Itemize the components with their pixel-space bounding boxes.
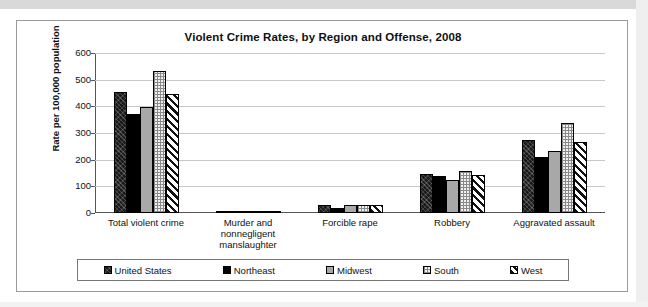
page-canvas: Violent Crime Rates, by Region and Offen… (0, 0, 648, 307)
x-axis-tick-label-line: manslaughter (197, 239, 299, 250)
x-axis-tick-label: Forcible rape (299, 217, 401, 228)
y-axis-tick-label: 200 (57, 155, 91, 165)
x-axis-tick-label-line: Robbery (401, 217, 503, 228)
x-axis-tick-label-line: Aggravated assault (503, 217, 605, 228)
bar (370, 205, 383, 213)
legend-item[interactable]: South (423, 265, 459, 276)
bar (446, 180, 459, 213)
y-axis-tick-label: 0 (57, 208, 91, 218)
bar (127, 114, 140, 213)
legend-item-label: South (434, 265, 459, 276)
x-axis-tick-label: Murder andnonnegligentmanslaughter (197, 217, 299, 250)
y-axis-tick (91, 213, 95, 214)
x-axis-tick-label-line: Total violent crime (95, 217, 197, 228)
chart-frame: Violent Crime Rates, by Region and Offen… (16, 20, 628, 292)
bar (229, 211, 242, 213)
legend-swatch-icon (326, 266, 334, 274)
legend-item-label: United States (115, 265, 172, 276)
bar (357, 205, 370, 213)
bar-group (197, 53, 299, 213)
y-axis-tick-label: 300 (57, 128, 91, 138)
x-axis-tick-label: Aggravated assault (503, 217, 605, 228)
bar-group (503, 53, 605, 213)
legend-swatch-icon (510, 266, 518, 274)
x-axis-tick-labels: Total violent crimeMurder andnonnegligen… (95, 217, 605, 263)
bar (548, 151, 561, 213)
bar (344, 205, 357, 213)
legend-item-label: West (521, 265, 542, 276)
y-axis-tick-label: 100 (57, 181, 91, 191)
bar (268, 211, 281, 213)
bar-group (299, 53, 401, 213)
legend-swatch-icon (104, 266, 112, 274)
bar (459, 171, 472, 213)
bar (114, 92, 127, 213)
bar (318, 205, 331, 213)
bar (331, 208, 344, 213)
bar (535, 157, 548, 213)
y-axis-tick-label: 400 (57, 101, 91, 111)
y-axis-tick-labels: 6005004003002001000 (55, 53, 91, 213)
x-axis-tick-label: Total violent crime (95, 217, 197, 228)
x-axis-tick-label-line: nonnegligent (197, 228, 299, 239)
bar (166, 94, 179, 213)
bar (242, 211, 255, 213)
bar (522, 140, 535, 213)
bar (561, 123, 574, 213)
plot-area (95, 53, 605, 213)
legend-item[interactable]: United States (104, 265, 172, 276)
y-axis-tick-label: 600 (57, 48, 91, 58)
scan-artifact-bottom (0, 302, 648, 307)
bar (420, 174, 433, 213)
plot-wrapper: Rate per 100,000 population 600500400300… (17, 21, 629, 293)
bar-group (401, 53, 503, 213)
legend-swatch-icon (423, 266, 431, 274)
y-axis-tick-label: 500 (57, 75, 91, 85)
scan-artifact-top (0, 0, 648, 9)
bar (216, 211, 229, 213)
legend-item-label: Northeast (234, 265, 275, 276)
bar (255, 211, 268, 213)
bar (433, 176, 446, 213)
legend-item[interactable]: West (510, 265, 542, 276)
legend-item[interactable]: Northeast (223, 265, 275, 276)
legend-item[interactable]: Midwest (326, 265, 372, 276)
bar (153, 71, 166, 213)
scan-artifact-right (636, 0, 648, 307)
legend-item-label: Midwest (337, 265, 372, 276)
bar (574, 142, 587, 213)
x-axis-tick-label: Robbery (401, 217, 503, 228)
x-axis-tick-label-line: Murder and (197, 217, 299, 228)
bar-group (95, 53, 197, 213)
legend-swatch-icon (223, 266, 231, 274)
bar (140, 107, 153, 213)
chart-legend: United StatesNortheastMidwestSouthWest (77, 259, 569, 281)
x-axis-tick-label-line: Forcible rape (299, 217, 401, 228)
bar (472, 175, 485, 213)
